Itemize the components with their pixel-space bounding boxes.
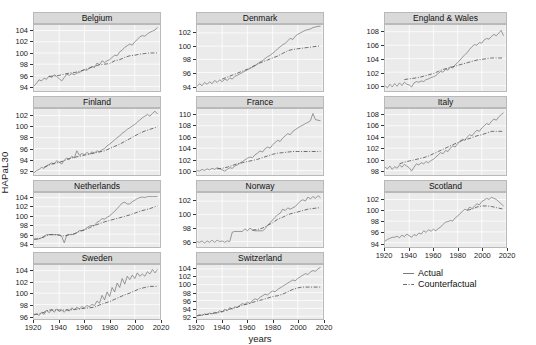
y-tick-label: 100	[178, 167, 191, 176]
x-tick-label: 2020	[316, 323, 333, 332]
y-tick-label: 96	[183, 238, 191, 247]
x-tick-label: 1940	[50, 323, 67, 332]
x-tick-label: 1960	[76, 323, 93, 332]
y-tick-label: 104	[178, 264, 191, 273]
y-tick-mark	[381, 86, 384, 87]
y-tick-mark	[381, 148, 384, 149]
y-tick-label: 98	[20, 300, 28, 309]
panel-sweden: Sweden	[33, 252, 161, 320]
y-tick-mark	[30, 317, 33, 318]
y-tick-label: 100	[178, 41, 191, 50]
series-counterfactual	[49, 53, 157, 76]
y-tick-mark	[381, 73, 384, 74]
legend-item: Actual	[402, 268, 477, 279]
y-tick-mark	[193, 137, 196, 138]
y-tick-mark	[30, 282, 33, 283]
panel-denmark: Denmark	[196, 12, 324, 92]
y-tick-mark	[193, 73, 196, 74]
y-tick-mark	[193, 200, 196, 201]
panel-netherlands: Netherlands	[33, 180, 161, 248]
y-tick-label: 104	[366, 54, 379, 63]
y-tick-mark	[30, 64, 33, 65]
x-tick-label: 1960	[425, 251, 442, 260]
series-counterfactual	[197, 287, 320, 316]
y-tick-mark	[30, 160, 33, 161]
y-tick-label: 98	[20, 221, 28, 230]
y-tick-label: 102	[366, 68, 379, 77]
y-tick-mark	[193, 293, 196, 294]
y-tick-label: 100	[15, 211, 28, 220]
plot-area	[196, 264, 324, 320]
y-tick-label: 102	[366, 144, 379, 153]
y-tick-mark	[381, 45, 384, 46]
y-tick-label: 94	[183, 82, 191, 91]
y-tick-mark	[193, 228, 196, 229]
y-tick-label: 96	[20, 230, 28, 239]
x-tick-label: 1940	[400, 251, 417, 260]
y-tick-label: 96	[20, 144, 28, 153]
panel-title: France	[196, 96, 324, 108]
y-tick-mark	[193, 309, 196, 310]
plot-area	[384, 192, 507, 248]
y-tick-label: 94	[20, 83, 28, 92]
panel-title: Scotland	[384, 180, 507, 192]
plot-area	[33, 108, 161, 176]
y-tick-label: 104	[178, 144, 191, 153]
panel-finland: Finland	[33, 96, 161, 176]
y-tick-label: 98	[183, 288, 191, 297]
series-actual	[197, 113, 320, 171]
panel-switzerland: Switzerland	[196, 252, 324, 320]
series-counterfactual	[400, 131, 504, 163]
y-tick-mark	[30, 225, 33, 226]
y-tick-mark	[30, 270, 33, 271]
plot-area	[33, 192, 161, 248]
x-tick-label: 2000	[127, 323, 144, 332]
y-tick-mark	[30, 293, 33, 294]
legend-key-dashdot-icon	[402, 279, 415, 290]
x-axis-label: years	[196, 333, 324, 344]
y-tick-mark	[381, 199, 384, 200]
y-tick-mark	[30, 244, 33, 245]
y-tick-mark	[193, 114, 196, 115]
y-tick-mark	[381, 125, 384, 126]
y-tick-mark	[381, 31, 384, 32]
y-tick-mark	[30, 41, 33, 42]
y-tick-label: 96	[20, 312, 28, 321]
plot-area	[196, 24, 324, 92]
x-tick-label: 1980	[101, 323, 118, 332]
y-tick-mark	[193, 214, 196, 215]
y-tick-label: 100	[178, 280, 191, 289]
y-tick-label: 100	[366, 82, 379, 91]
y-tick-mark	[193, 160, 196, 161]
panel-france: France	[196, 96, 324, 176]
y-tick-mark	[30, 305, 33, 306]
y-tick-label: 96	[371, 228, 379, 237]
panel-norway: Norway	[196, 180, 324, 248]
y-axis-label: HAPaL30	[0, 0, 13, 345]
panel-scotland: Scotland	[384, 180, 507, 248]
y-tick-mark	[381, 160, 384, 161]
y-tick-mark	[193, 125, 196, 126]
x-tick-label: 1940	[213, 323, 230, 332]
y-tick-label: 108	[366, 109, 379, 118]
y-tick-label: 94	[183, 304, 191, 313]
y-tick-mark	[193, 46, 196, 47]
panel-belgium: Belgium	[33, 12, 161, 92]
y-tick-label: 98	[20, 133, 28, 142]
series-counterfactual	[34, 286, 157, 314]
panel-title: England & Wales	[384, 12, 507, 24]
panel-title: Italy	[384, 96, 507, 108]
y-tick-label: 102	[15, 277, 28, 286]
y-tick-label: 92	[20, 167, 28, 176]
plot-area	[384, 24, 507, 92]
y-tick-label: 92	[183, 313, 191, 322]
y-tick-mark	[193, 171, 196, 172]
y-tick-mark	[30, 87, 33, 88]
y-tick-label: 100	[366, 155, 379, 164]
y-tick-mark	[30, 149, 33, 150]
y-tick-mark	[381, 171, 384, 172]
x-tick-label: 2020	[153, 323, 170, 332]
series-counterfactual	[44, 127, 157, 168]
y-tick-label: 100	[15, 122, 28, 131]
y-tick-mark	[30, 216, 33, 217]
